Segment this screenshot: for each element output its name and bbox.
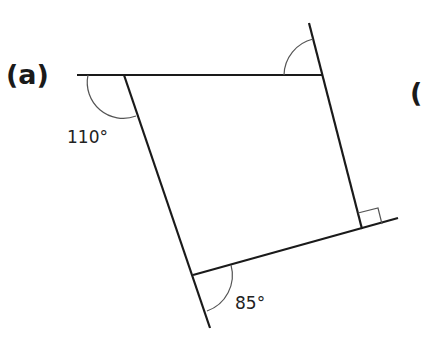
angle-label-110: 110°	[67, 127, 108, 147]
right-side	[309, 23, 362, 229]
angle-arc-85	[207, 265, 232, 311]
next-part-label: (	[410, 77, 422, 108]
quadrilateral-diagram: (a) ( 110° 85°	[0, 0, 425, 354]
bottom-side	[193, 218, 398, 275]
part-label: (a)	[6, 59, 49, 90]
right-angle-marker	[358, 208, 382, 224]
left-side	[124, 75, 210, 328]
angle-arc-unknown	[284, 39, 313, 75]
angle-label-85: 85°	[235, 293, 265, 313]
angle-arc-110	[87, 75, 136, 118]
